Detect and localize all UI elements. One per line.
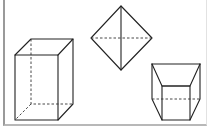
octahedron: [91, 6, 152, 70]
rectangular-prism: [15, 39, 73, 120]
frustum: [152, 64, 200, 120]
solids-diagram: [0, 0, 210, 129]
